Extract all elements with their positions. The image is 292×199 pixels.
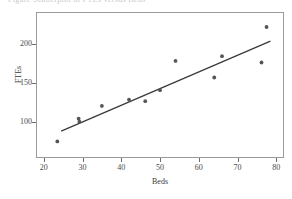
clipped-caption-strip: Figure Scatterplot of FTEs versus Beds	[0, 0, 292, 7]
x-tick-mark	[276, 158, 277, 162]
y-tick-mark	[32, 122, 36, 123]
scatter-svg	[36, 12, 284, 158]
data-point	[158, 88, 162, 92]
x-axis-label: Beds	[36, 177, 284, 186]
data-points	[55, 25, 268, 143]
y-tick-label: 100	[2, 117, 32, 126]
clipped-caption-text: Figure Scatterplot of FTEs versus Beds	[8, 0, 145, 4]
x-tick-label: 60	[187, 163, 211, 172]
x-tick-label: 50	[148, 163, 172, 172]
data-point	[174, 59, 178, 63]
data-point	[78, 120, 82, 124]
x-tick-mark	[238, 158, 239, 162]
x-tick-mark	[199, 158, 200, 162]
x-tick-mark	[83, 158, 84, 162]
fit-line	[61, 41, 270, 131]
x-tick-mark	[160, 158, 161, 162]
data-point	[55, 140, 59, 144]
data-point	[127, 98, 131, 102]
y-tick-mark	[32, 44, 36, 45]
data-point	[220, 54, 224, 58]
data-point	[77, 117, 81, 121]
plot-canvas	[36, 12, 284, 158]
x-tick-mark	[44, 158, 45, 162]
x-tick-label: 70	[226, 163, 250, 172]
data-point	[100, 104, 104, 108]
y-tick-mark	[32, 83, 36, 84]
data-point	[260, 61, 264, 65]
figure-scatterplot: Figure Scatterplot of FTEs versus Beds 1…	[0, 0, 292, 199]
data-point	[143, 99, 147, 103]
y-axis-label: FTEs	[14, 45, 23, 105]
x-tick-label: 20	[32, 163, 56, 172]
data-point	[212, 76, 216, 80]
x-tick-label: 80	[264, 163, 288, 172]
x-tick-label: 30	[71, 163, 95, 172]
data-point	[265, 25, 269, 29]
x-tick-mark	[121, 158, 122, 162]
regression-line	[61, 41, 270, 131]
x-tick-label: 40	[109, 163, 133, 172]
